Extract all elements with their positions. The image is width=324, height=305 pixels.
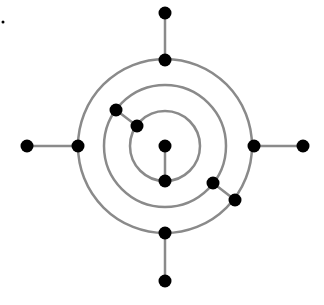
node-inner-upper-left xyxy=(131,120,144,133)
node-end-left xyxy=(21,140,34,153)
node-inner-bottom xyxy=(159,175,172,188)
node-end-top xyxy=(159,7,172,20)
node-outer-top xyxy=(159,54,172,67)
node-middle-upper-left xyxy=(110,104,123,117)
node-center xyxy=(159,140,172,153)
node-outer-bottom xyxy=(159,227,172,240)
concentric-graph-diagram xyxy=(0,0,324,305)
stray-dot xyxy=(2,21,5,24)
node-end-right xyxy=(297,140,310,153)
node-middle-lower-right xyxy=(207,177,220,190)
node-end-bottom xyxy=(159,275,172,288)
node-outer-left xyxy=(72,140,85,153)
node-outer-lower-right xyxy=(229,194,242,207)
node-outer-right xyxy=(248,140,261,153)
stray-dot-group xyxy=(2,21,5,24)
